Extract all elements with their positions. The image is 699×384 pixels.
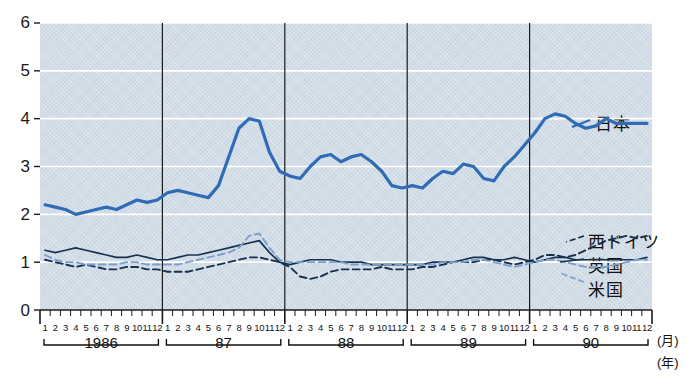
year-bracket xyxy=(166,339,280,345)
leader-west-germany xyxy=(566,236,584,242)
leader-usa xyxy=(560,273,584,282)
series-line-日本 xyxy=(45,114,647,214)
year-bracket xyxy=(411,339,525,345)
series-line-英国 xyxy=(45,241,647,265)
year-bracket xyxy=(289,339,403,345)
year-bracket xyxy=(534,339,648,345)
year-bracket xyxy=(44,339,158,345)
chart-svg-layer xyxy=(0,0,699,384)
line-chart: 6 5 4 3 2 1 0 12345678910111212345678910… xyxy=(0,0,699,384)
